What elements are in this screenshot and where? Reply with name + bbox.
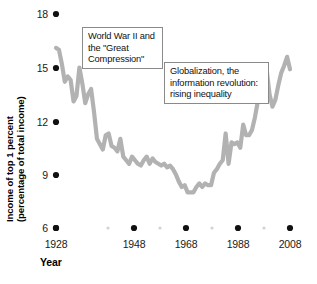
y-axis-title-line1: Income of top 1 percent [4,96,15,222]
y-axis-major-ticks [53,11,59,231]
x-tick-label-1948: 1948 [114,238,154,250]
y-tick-label-9: 9 [26,169,48,181]
x-tick-label-2008: 2008 [270,238,310,250]
annotation-globalization: Globalization, the information revolutio… [164,62,269,104]
x-tick-label-1968: 1968 [166,238,206,250]
income-share-chart: 18 15 12 9 6 1928 1948 1968 1988 2008 Ye… [0,0,317,284]
x-tick-label-1928: 1928 [36,238,76,250]
y-axis-title-line2: (percentage of total income) [15,96,26,222]
y-axis-title: Income of top 1 percent (percentage of t… [4,96,26,222]
annotation-world-war-2: World War II and the "Great Compression" [82,27,163,69]
y-tick-label-6: 6 [26,222,48,234]
x-axis-major-ticks [53,225,293,231]
x-axis-title: Year [40,256,62,268]
y-tick-label-15: 15 [26,62,48,74]
y-tick-label-12: 12 [26,116,48,128]
y-tick-label-18: 18 [26,8,48,20]
x-tick-label-1988: 1988 [218,238,258,250]
